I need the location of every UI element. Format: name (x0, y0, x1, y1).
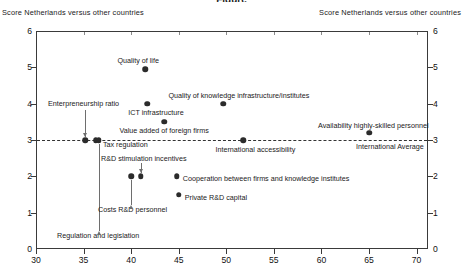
y-tick-label-left: 4 (12, 99, 32, 109)
point-label-intl-accessibility: International accessibility (215, 146, 295, 153)
y-tick-mark (428, 104, 433, 105)
data-point (96, 137, 102, 143)
y-tick-label-right: 4 (433, 99, 453, 109)
y-tick-mark (31, 140, 36, 141)
top-tick-mark (321, 32, 322, 35)
y-tick-label-right: 5 (433, 62, 453, 72)
top-tick-mark (131, 32, 132, 35)
x-tick-mark (321, 249, 322, 254)
data-point (145, 101, 151, 107)
x-tick-mark (179, 249, 180, 254)
data-point (241, 137, 247, 143)
y-tick-label-right: 2 (433, 171, 453, 181)
y-tick-mark (428, 67, 433, 68)
callout-label-entrepreneurship: Enterpreneurship ratio (48, 100, 119, 107)
data-point (174, 174, 180, 180)
y-tick-label-left: 0 (12, 244, 32, 254)
point-label-value-added: Value added of foreign firms (119, 127, 208, 134)
x-tick-label: 40 (126, 255, 136, 265)
top-tick-mark (84, 32, 85, 35)
top-tick-mark (179, 32, 180, 35)
data-point (366, 130, 372, 136)
point-label-tax-regulation: Tax regulation (103, 141, 148, 148)
y-tick-mark (428, 213, 433, 214)
data-point (221, 101, 227, 107)
y-tick-label-right: 3 (433, 135, 453, 145)
international-average-label: International Average (356, 142, 424, 151)
x-tick-label: 30 (31, 255, 41, 265)
point-label-ict: ICT infrastructure (128, 109, 183, 116)
y-tick-mark (31, 104, 36, 105)
x-tick-label: 50 (222, 255, 232, 265)
leader-arrowhead (97, 231, 101, 235)
point-label-quality-knowledge: Quality of knowledge infrastructure/inst… (168, 92, 309, 99)
top-tick-mark (274, 32, 275, 35)
y-tick-mark (428, 176, 433, 177)
x-tick-label: 60 (317, 255, 327, 265)
x-tick-mark (226, 249, 227, 254)
y-tick-label-right: 1 (433, 208, 453, 218)
right-axis-caption: Score Netherlands versus other countries (319, 8, 461, 17)
data-point (176, 192, 182, 198)
y-tick-label-right: 6 (433, 26, 453, 36)
top-tick-mark (369, 32, 370, 35)
x-tick-label: 70 (412, 255, 422, 265)
chart-root: Figure Score Netherlands versus other co… (0, 0, 463, 274)
x-tick-label: 65 (364, 255, 374, 265)
y-tick-label-left: 2 (12, 171, 32, 181)
top-tick-mark (226, 32, 227, 35)
leader-line (131, 180, 132, 205)
y-tick-label-left: 5 (12, 62, 32, 72)
y-tick-label-left: 3 (12, 135, 32, 145)
x-tick-label: 45 (174, 255, 184, 265)
figure-title: Figure (0, 0, 463, 2)
y-tick-mark (31, 67, 36, 68)
leader-arrowhead (83, 133, 87, 137)
x-tick-mark (36, 249, 37, 254)
point-label-availability: Availability highly-skilled personnel (318, 122, 429, 129)
data-point (143, 66, 149, 72)
data-point (138, 174, 144, 180)
point-label-quality-of-life: Quality of life (117, 57, 159, 64)
x-tick-mark (369, 249, 370, 254)
leader-arrowhead (129, 205, 133, 209)
x-tick-label: 35 (79, 255, 89, 265)
x-tick-mark (84, 249, 85, 254)
data-point (128, 174, 134, 180)
y-tick-label-right: 0 (433, 244, 453, 254)
y-tick-label-left: 6 (12, 26, 32, 36)
x-tick-mark (417, 249, 418, 254)
y-tick-mark (31, 213, 36, 214)
leader-arrowhead (139, 169, 143, 173)
y-tick-mark (31, 176, 36, 177)
y-tick-label-left: 1 (12, 208, 32, 218)
point-label-cooperation: Cooperation between firms and knowledge … (183, 175, 350, 182)
callout-label-rd-stimulation: R&D stimulation incentives (101, 155, 187, 162)
left-axis-caption: Score Netherlands versus other countries (2, 8, 144, 17)
x-tick-mark (274, 249, 275, 254)
point-label-private-rd: Private R&D capital (185, 194, 247, 201)
leader-line (99, 144, 100, 231)
data-point (162, 119, 168, 125)
data-point (83, 137, 89, 143)
top-tick-mark (417, 32, 418, 35)
y-tick-mark (428, 140, 433, 141)
x-tick-label: 55 (269, 255, 279, 265)
x-tick-mark (131, 249, 132, 254)
